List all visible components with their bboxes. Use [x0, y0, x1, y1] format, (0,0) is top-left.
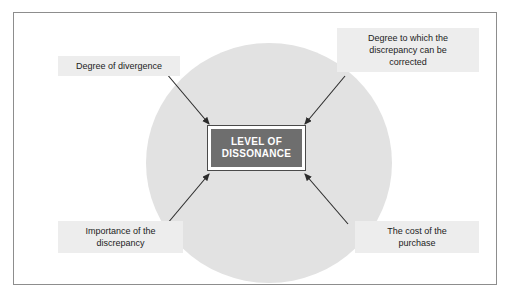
factor-importance-line2: discrepancy [96, 238, 144, 248]
arrow-from-cost-of-purchase-icon [305, 174, 348, 224]
center-node-label-line1: LEVEL OF [231, 136, 282, 147]
factor-importance-of-the-discrepancy: Importance of the discrepancy [58, 221, 183, 253]
factor-cost-line2: purchase [398, 238, 435, 248]
factor-importance-line1: Importance of the [85, 226, 155, 236]
center-node-level-of-dissonance: LEVEL OF DISSONANCE [208, 126, 305, 170]
factor-cost-line1: The cost of the [387, 226, 447, 236]
arrow-from-discrepancy-corrected-icon [305, 76, 345, 124]
center-node-label-line2: DISSONANCE [222, 148, 292, 159]
factor-degree-of-divergence: Degree of divergence [58, 56, 180, 76]
factor-degree-of-divergence-line1: Degree of divergence [76, 61, 162, 71]
factor-degree-to-which-discrepancy-corrected: Degree to which the discrepancy can be c… [337, 28, 479, 72]
factor-discrepancy-corrected-line1: Degree to which the [368, 33, 448, 43]
factor-cost-of-the-purchase: The cost of the purchase [355, 221, 479, 253]
dissonance-diagram: LEVEL OF DISSONANCE Degree of divergence… [0, 0, 511, 298]
arrow-from-degree-of-divergence-icon [166, 73, 209, 124]
factor-discrepancy-corrected-line2: discrepancy can be [369, 45, 447, 55]
arrow-from-importance-of-discrepancy-icon [167, 174, 209, 224]
center-node-label: LEVEL OF DISSONANCE [222, 136, 292, 160]
factor-discrepancy-corrected-line3: corrected [389, 57, 427, 67]
